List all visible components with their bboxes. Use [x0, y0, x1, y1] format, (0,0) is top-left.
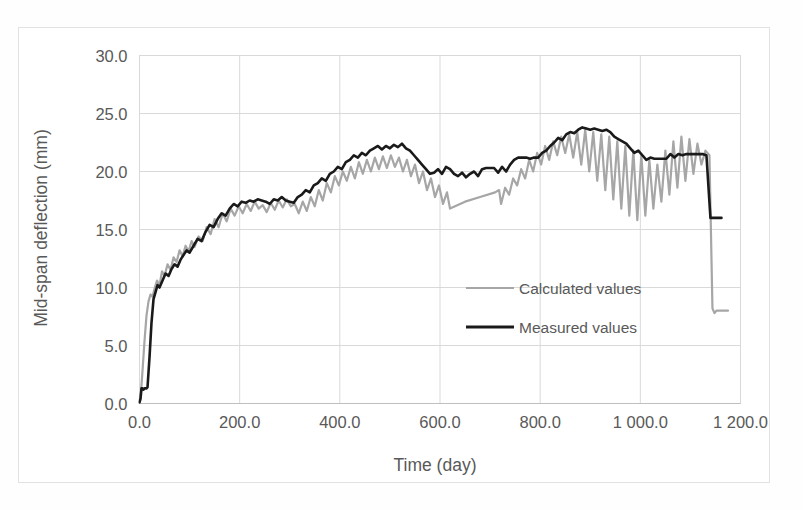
x-tick-label: 800.0: [520, 413, 561, 431]
y-tick-label: 5.0: [105, 337, 128, 355]
x-tick-label: 200.0: [219, 413, 260, 431]
x-tick-label: 1 200.0: [713, 413, 768, 431]
chart-legend: Calculated valuesMeasured values: [466, 280, 642, 336]
series-line-calculated: [140, 130, 728, 401]
x-axis-tick-labels: 0.0200.0400.0600.0800.01 000.01 200.0: [128, 413, 768, 431]
y-axis-title: Mid-span deflection (mm): [31, 129, 51, 326]
x-axis-title: Time (day): [394, 455, 477, 475]
y-tick-label: 30.0: [95, 47, 127, 65]
y-tick-label: 0.0: [105, 395, 128, 413]
legend-label-calculated: Calculated values: [519, 280, 642, 297]
x-tick-label: 600.0: [419, 413, 460, 431]
data-series-layer: [140, 127, 728, 402]
y-tick-label: 25.0: [95, 105, 127, 123]
x-tick-label: 1 000.0: [613, 413, 668, 431]
y-tick-label: 15.0: [95, 221, 127, 239]
chart-figure: 0.05.010.015.020.025.030.0 0.0200.0400.0…: [0, 0, 803, 510]
y-tick-label: 20.0: [95, 163, 127, 181]
chart-canvas: 0.05.010.015.020.025.030.0 0.0200.0400.0…: [0, 0, 803, 510]
x-tick-label: 0.0: [128, 413, 151, 431]
y-tick-label: 10.0: [95, 279, 127, 297]
y-axis-tick-labels: 0.05.010.015.020.025.030.0: [95, 47, 127, 413]
legend-label-measured: Measured values: [519, 319, 637, 336]
x-tick-label: 400.0: [319, 413, 360, 431]
